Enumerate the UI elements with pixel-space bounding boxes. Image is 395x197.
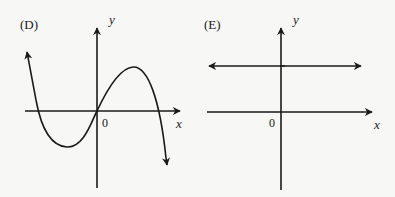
- panel-e-origin-label: 0: [269, 116, 275, 130]
- panel-d-curve-right-arrow: [166, 158, 167, 165]
- panel-e-y-label: y: [291, 12, 299, 27]
- panel-d-y-label: y: [107, 12, 115, 27]
- panel-e-x-label: x: [373, 117, 380, 132]
- panel-d-origin-label: 0: [102, 116, 108, 130]
- panel-d-x-label: x: [175, 116, 182, 131]
- panel-e-label: (E): [204, 17, 221, 32]
- panel-d-curve-left-arrow: [27, 52, 36, 100]
- panel-e: (E) y x 0: [204, 12, 380, 190]
- panel-d-label: (D): [20, 17, 38, 32]
- graphs-figure: (D) y x 0 (E) y x 0: [0, 0, 395, 197]
- panel-d-cubic-curve: [36, 67, 166, 158]
- panel-d: (D) y x 0: [20, 12, 182, 188]
